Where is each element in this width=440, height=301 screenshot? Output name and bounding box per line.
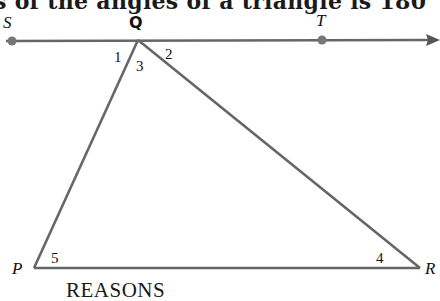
point-t-dot xyxy=(318,36,327,45)
angle-label-1: 1 xyxy=(114,49,122,65)
point-label-s: S xyxy=(3,13,12,32)
side-qr xyxy=(138,40,420,268)
angle-label-4: 4 xyxy=(376,250,384,266)
arrowhead-icon xyxy=(426,34,440,46)
angle-label-3: 3 xyxy=(136,58,144,74)
triangle-figure: S Q T P R 1 2 3 4 5 xyxy=(0,0,440,301)
angle-label-5: 5 xyxy=(51,250,59,266)
reasons-heading: REASONS xyxy=(66,278,165,301)
angle-label-2: 2 xyxy=(165,46,173,62)
point-label-p: P xyxy=(11,259,22,278)
side-qp xyxy=(34,40,138,268)
point-label-r: R xyxy=(424,259,436,278)
triangle-pqr xyxy=(34,40,420,268)
point-s-dot xyxy=(8,37,17,46)
point-label-q: Q xyxy=(129,13,143,32)
point-label-t: T xyxy=(316,11,327,30)
line-st xyxy=(6,34,440,46)
